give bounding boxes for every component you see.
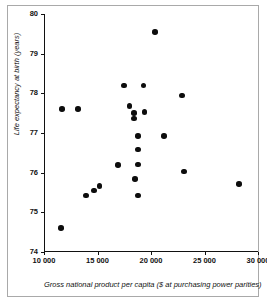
- x-tick-mark: [98, 252, 99, 255]
- x-tick-label: 20 000: [140, 257, 163, 265]
- y-tick-mark: [41, 54, 44, 55]
- data-point: [83, 193, 89, 199]
- data-point: [58, 225, 64, 231]
- x-axis-label: Gross national product per capita ($ at …: [44, 280, 258, 289]
- data-point: [236, 181, 242, 187]
- y-axis-label: Life expectancy at birth (years): [12, 14, 21, 154]
- data-point: [59, 106, 65, 112]
- data-point: [91, 188, 97, 194]
- data-point: [161, 133, 167, 139]
- x-tick-mark: [151, 252, 152, 255]
- x-tick-label: 10 000: [33, 257, 56, 265]
- y-tick-mark: [41, 93, 44, 94]
- y-tick-mark: [41, 133, 44, 134]
- x-tick-label: 15 000: [86, 257, 109, 265]
- data-point: [131, 116, 137, 122]
- plot-area: 74757677787980 10 00015 00020 00025 0003…: [44, 14, 258, 252]
- data-point: [135, 133, 141, 139]
- y-tick-label: 76: [30, 169, 38, 177]
- data-point: [135, 147, 141, 153]
- data-point: [135, 162, 141, 168]
- y-tick-mark: [41, 173, 44, 174]
- x-tick-mark: [44, 252, 45, 255]
- x-tick-label: 25 000: [193, 257, 216, 265]
- y-tick-mark: [41, 14, 44, 15]
- data-point: [75, 106, 81, 112]
- data-point: [135, 193, 141, 199]
- data-point: [181, 169, 187, 175]
- data-point: [121, 83, 127, 89]
- x-tick-mark: [205, 252, 206, 255]
- y-tick-label: 78: [30, 89, 38, 97]
- data-point: [152, 29, 158, 35]
- data-point: [142, 109, 148, 115]
- y-tick-mark: [41, 212, 44, 213]
- y-tick-label: 79: [30, 50, 38, 58]
- scatter-plot-figure: Life expectancy at birth (years) 7475767…: [0, 0, 267, 303]
- x-tick-label: 30 000: [247, 257, 267, 265]
- data-point: [127, 103, 133, 109]
- y-tick-label: 80: [30, 10, 38, 18]
- data-point: [141, 83, 147, 89]
- y-tick-label: 77: [30, 129, 38, 137]
- data-point: [179, 93, 185, 99]
- data-point: [115, 162, 121, 168]
- data-point: [97, 183, 103, 189]
- x-tick-mark: [258, 252, 259, 255]
- y-axis-line: [44, 14, 45, 252]
- y-tick-label: 75: [30, 208, 38, 216]
- y-tick-label: 74: [30, 248, 38, 256]
- data-point: [132, 176, 138, 182]
